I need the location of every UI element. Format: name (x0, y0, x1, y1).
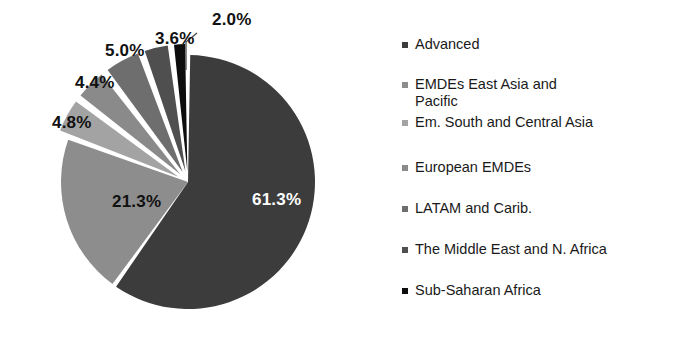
legend-item-label: European EMDEs (415, 159, 531, 176)
slice-value-label: 61.3% (252, 190, 301, 209)
slice-value-label: 4.4% (75, 73, 115, 92)
slice-value-label: 4.8% (52, 113, 92, 132)
legend-item-label: Advanced (415, 36, 480, 53)
legend-item-label: LATAM and Carib. (415, 200, 532, 217)
slice-value-label: 3.6% (155, 29, 195, 48)
slice-value-label: 21.3% (112, 192, 161, 211)
legend: AdvancedEMDEs East Asia and PacificEm. S… (402, 0, 679, 338)
legend-swatch-icon (402, 206, 408, 212)
legend-swatch-icon (402, 247, 408, 253)
legend-item-label: EMDEs East Asia and Pacific (415, 76, 557, 109)
legend-item-label: Em. South and Central Asia (415, 114, 593, 131)
legend-item-label: The Middle East and N. Africa (415, 241, 607, 258)
slice-value-label: 2.0% (212, 10, 252, 29)
legend-item[interactable]: The Middle East and N. Africa (402, 241, 607, 258)
legend-item[interactable]: LATAM and Carib. (402, 200, 532, 217)
legend-item-label: Sub-Saharan Africa (415, 282, 541, 299)
legend-item[interactable]: EMDEs East Asia and Pacific (402, 76, 557, 109)
legend-swatch-icon (402, 165, 408, 171)
legend-item[interactable]: Sub-Saharan Africa (402, 282, 541, 299)
pie-chart: 61.3%21.3%4.8%4.4%5.0%3.6%2.0% AdvancedE… (0, 0, 679, 338)
legend-swatch-icon (402, 82, 408, 88)
legend-swatch-icon (402, 42, 408, 48)
legend-item[interactable]: European EMDEs (402, 159, 531, 176)
slice-value-label: 5.0% (105, 41, 145, 60)
legend-item[interactable]: Em. South and Central Asia (402, 114, 593, 131)
legend-swatch-icon (402, 120, 408, 126)
legend-item[interactable]: Advanced (402, 36, 480, 53)
legend-swatch-icon (402, 288, 408, 294)
